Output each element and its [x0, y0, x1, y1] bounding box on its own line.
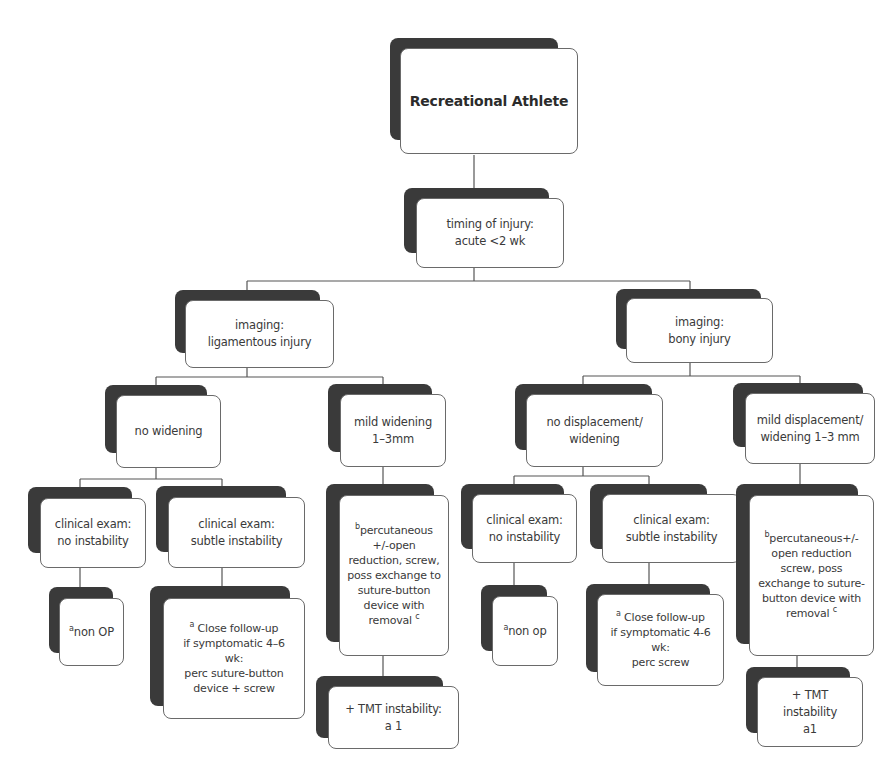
node-mild-widening: mild widening 1–3mm: [328, 384, 446, 468]
node-imaging-ligamentous: imaging: ligamentous injury: [175, 290, 335, 368]
node-label: clinical exam: subtle instability: [191, 516, 283, 550]
node-recreational-athlete: Recreational Athlete: [390, 38, 580, 156]
node-bony-non-op: anon op: [481, 585, 558, 666]
node-label: no widening: [135, 423, 203, 440]
node-label: imaging: ligamentous injury: [208, 317, 312, 351]
node-label: bpercutaneous +/-open reduction, screw, …: [347, 523, 440, 628]
node-card: + TMT instability: a 1: [328, 686, 459, 749]
node-card: anon op: [492, 596, 558, 666]
node-label: mild widening 1–3mm: [354, 414, 432, 448]
node-label: anon OP: [69, 624, 114, 641]
node-lig-clinical-exam-no-instability: clinical exam: no instability: [28, 487, 146, 568]
node-label: imaging: bony injury: [668, 314, 730, 348]
node-label: clinical exam: no instability: [486, 512, 562, 546]
node-card: no widening: [116, 395, 221, 468]
node-label: a Close follow-up if symptomatic 4–6 wk:…: [183, 621, 285, 696]
node-card: timing of injury: acute <2 wk: [416, 198, 564, 268]
node-card: Recreational Athlete: [400, 48, 578, 154]
node-card: anon OP: [59, 598, 124, 666]
footnote-c: c: [833, 605, 837, 614]
node-card: imaging: bony injury: [626, 298, 773, 363]
node-label: clinical exam: no instability: [55, 516, 131, 550]
node-card: + TMT instability a1: [757, 677, 863, 747]
node-bony-clinical-exam-no-instability: clinical exam: no instability: [461, 484, 577, 563]
node-label: a Close follow-up if symptomatic 4-6 wk:…: [610, 610, 710, 670]
node-card: no displacement/ widening: [526, 394, 663, 467]
node-card: imaging: ligamentous injury: [185, 300, 334, 368]
node-bony-close-follow-up: a Close follow-up if symptomatic 4-6 wk:…: [586, 584, 724, 686]
node-card: a Close follow-up if symptomatic 4–6 wk:…: [163, 598, 305, 719]
treatment-algorithm-diagram: Recreational Athlete timing of injury: a…: [0, 0, 894, 763]
node-bony-percutaneous-treatment: bpercutaneous+/- open reduction screw, p…: [736, 484, 874, 656]
node-label: + TMT instability a1: [764, 687, 856, 738]
node-card: bpercutaneous +/-open reduction, screw, …: [339, 495, 449, 656]
node-mild-displacement: mild displacement/ widening 1–3 mm: [733, 383, 875, 464]
node-imaging-bony: imaging: bony injury: [616, 289, 774, 363]
node-timing-of-injury: timing of injury: acute <2 wk: [404, 188, 564, 268]
node-label: anon op: [503, 623, 546, 640]
node-lig-clinical-exam-subtle-instability: clinical exam: subtle instability: [156, 486, 305, 568]
node-lig-close-follow-up: a Close follow-up if symptomatic 4–6 wk:…: [150, 586, 305, 719]
node-bony-clinical-exam-subtle-instability: clinical exam: subtle instability: [590, 484, 741, 563]
node-lig-non-op: anon OP: [49, 587, 124, 666]
node-card: bpercutaneous+/- open reduction screw, p…: [749, 495, 874, 656]
node-card: clinical exam: no instability: [472, 494, 577, 563]
node-card: a Close follow-up if symptomatic 4-6 wk:…: [597, 594, 724, 686]
node-card: clinical exam: no instability: [40, 498, 146, 568]
node-label: + TMT instability: a 1: [345, 701, 442, 735]
node-no-widening: no widening: [105, 385, 221, 468]
footnote-c: c: [415, 612, 419, 621]
node-no-displacement: no displacement/ widening: [515, 384, 663, 467]
node-label: bpercutaneous+/- open reduction screw, p…: [758, 531, 865, 621]
node-label: clinical exam: subtle instability: [626, 512, 718, 546]
node-card: clinical exam: subtle instability: [602, 494, 741, 563]
node-card: clinical exam: subtle instability: [168, 497, 305, 568]
node-label: Recreational Athlete: [410, 93, 569, 110]
node-label: no displacement/ widening: [546, 414, 642, 448]
node-label: timing of injury: acute <2 wk: [446, 216, 533, 250]
node-card: mild widening 1–3mm: [340, 394, 446, 467]
node-card: mild displacement/ widening 1–3 mm: [745, 393, 875, 464]
node-lig-tmt-instability: + TMT instability: a 1: [316, 676, 459, 749]
node-label: mild displacement/ widening 1–3 mm: [757, 412, 863, 446]
node-lig-percutaneous-treatment: bpercutaneous +/-open reduction, screw, …: [326, 484, 449, 656]
node-bony-tmt-instability: + TMT instability a1: [746, 667, 863, 747]
